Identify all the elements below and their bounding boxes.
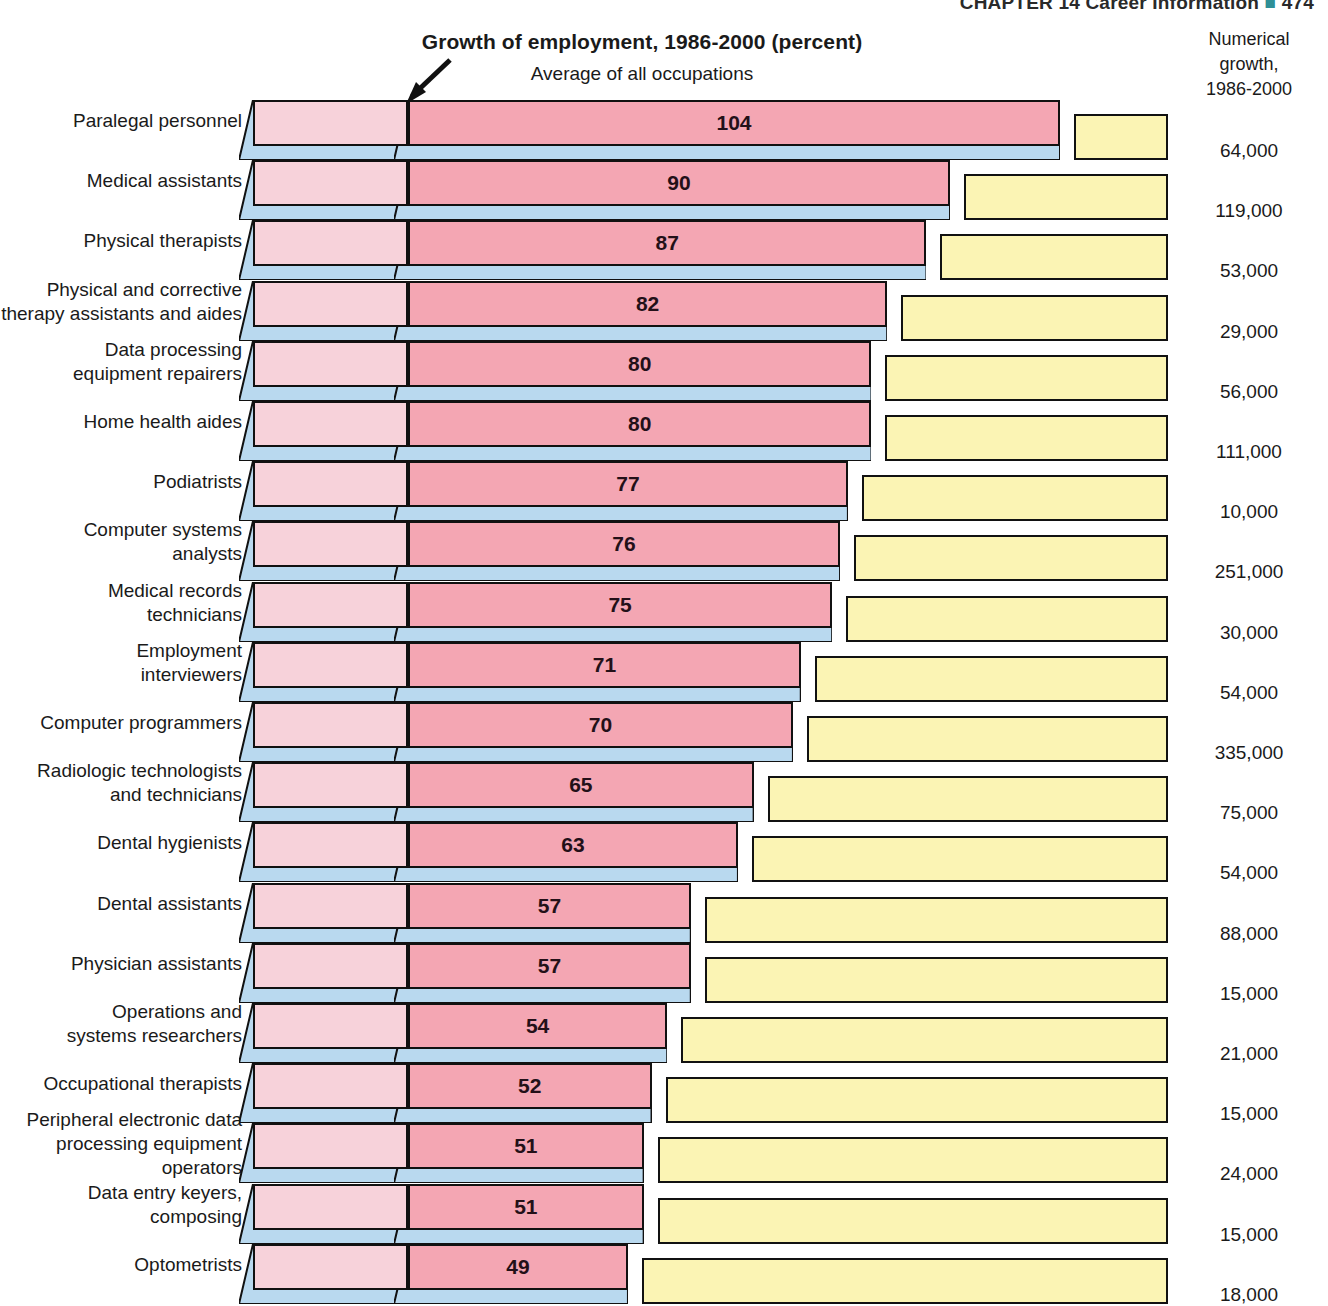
category-label: Medical assistants <box>0 169 242 193</box>
bar-segment-base <box>253 1123 408 1169</box>
numerical-growth-value: 29,000 <box>1176 321 1322 343</box>
category-label-line: Operations and <box>0 1000 242 1024</box>
category-label-line: Radiologic technologists <box>0 759 242 783</box>
bar-value-label: 57 <box>408 894 691 918</box>
bar-value-label: 49 <box>408 1255 628 1279</box>
bar-segment-base <box>253 1063 408 1109</box>
category-label-line: Optometrists <box>0 1253 242 1277</box>
bar-segment-base <box>253 160 408 206</box>
bar-value-label: 54 <box>408 1014 667 1038</box>
bar-segment-base <box>253 341 408 387</box>
category-label-line: and technicians <box>0 783 242 807</box>
numerical-growth-value: 15,000 <box>1176 1103 1322 1125</box>
category-label-line: Home health aides <box>0 410 242 434</box>
category-label-line: analysts <box>0 542 242 566</box>
category-label: Physician assistants <box>0 952 242 976</box>
numerical-growth-value: 18,000 <box>1176 1284 1322 1306</box>
category-label: Medical recordstechnicians <box>0 579 242 627</box>
numerical-growth-value: 335,000 <box>1176 742 1322 764</box>
running-head-page: 474 <box>1282 0 1314 13</box>
bar-value-label: 87 <box>408 231 926 255</box>
category-label-line: composing <box>0 1205 242 1229</box>
bar-segment-remainder <box>854 535 1168 581</box>
bar-value-label: 90 <box>408 171 950 195</box>
category-label-line: Peripheral electronic data <box>0 1108 242 1132</box>
category-label: Data entry keyers,composing <box>0 1181 242 1229</box>
category-label-line: Physical therapists <box>0 229 242 253</box>
category-label-line: Physical and corrective <box>0 278 242 302</box>
category-label-line: systems researchers <box>0 1024 242 1048</box>
bar-value-label: 70 <box>408 713 793 737</box>
bar-value-label: 51 <box>408 1195 644 1219</box>
numerical-growth-value: 30,000 <box>1176 622 1322 644</box>
bar-value-label: 75 <box>408 593 832 617</box>
bar-segment-remainder <box>964 174 1168 220</box>
bar-value-label: 65 <box>408 773 754 797</box>
numerical-growth-value: 56,000 <box>1176 381 1322 403</box>
category-label-line: Medical assistants <box>0 169 242 193</box>
bar-segment-remainder <box>705 897 1168 943</box>
category-label-line: Computer systems <box>0 518 242 542</box>
bar-segment-base <box>253 642 408 688</box>
bar-segment-base <box>253 100 408 146</box>
category-label: Data processingequipment repairers <box>0 338 242 386</box>
bar-segment-base <box>253 822 408 868</box>
category-label: Operations andsystems researchers <box>0 1000 242 1048</box>
numerical-growth-value: 251,000 <box>1176 561 1322 583</box>
bar-segment-base <box>253 762 408 808</box>
bar-segment-remainder <box>658 1198 1168 1244</box>
bar-segment-remainder <box>846 596 1168 642</box>
category-label-line: Medical records <box>0 579 242 603</box>
bar-segment-base <box>253 943 408 989</box>
numerical-growth-header-line2: growth, <box>1174 52 1324 77</box>
category-label: Dental assistants <box>0 892 242 916</box>
category-label-line: interviewers <box>0 663 242 687</box>
category-label-line: Data processing <box>0 338 242 362</box>
numerical-growth-value: 15,000 <box>1176 1224 1322 1246</box>
bar-segment-base <box>253 521 408 567</box>
numerical-growth-value: 111,000 <box>1176 441 1322 463</box>
bar-segment-base <box>253 401 408 447</box>
bar-segment-remainder <box>807 716 1168 762</box>
bar-segment-remainder <box>658 1137 1168 1183</box>
category-label: Computer systemsanalysts <box>0 518 242 566</box>
numerical-growth-value: 119,000 <box>1176 200 1322 222</box>
numerical-growth-value: 75,000 <box>1176 802 1322 824</box>
bar-segment-remainder <box>705 957 1168 1003</box>
bar-segment-base <box>253 1003 408 1049</box>
bar-value-label: 57 <box>408 954 691 978</box>
numerical-growth-value: 88,000 <box>1176 923 1322 945</box>
bar-segment-base <box>253 220 408 266</box>
bar-segment-remainder <box>901 295 1168 341</box>
bar-segment-remainder <box>642 1258 1168 1304</box>
category-label-line: Employment <box>0 639 242 663</box>
bar-segment-remainder <box>815 656 1168 702</box>
bar-segment-base <box>253 582 408 628</box>
category-label-line: Dental hygienists <box>0 831 242 855</box>
category-label: Physical and correctivetherapy assistant… <box>0 278 242 326</box>
chart-subtitle: Average of all occupations <box>262 63 1022 85</box>
bar-value-label: 104 <box>408 111 1060 135</box>
numerical-growth-value: 64,000 <box>1176 140 1322 162</box>
bar-value-label: 63 <box>408 833 738 857</box>
numerical-growth-column-header: Numerical growth, 1986-2000 <box>1174 27 1324 102</box>
category-label: Radiologic technologistsand technicians <box>0 759 242 807</box>
category-label-line: operators <box>0 1156 242 1180</box>
bar-segment-base <box>253 1244 408 1290</box>
bar-segment-remainder <box>768 776 1168 822</box>
category-label-line: Computer programmers <box>0 711 242 735</box>
bar-segment-remainder <box>752 836 1168 882</box>
category-label-line: processing equipment <box>0 1132 242 1156</box>
category-label-line: Podiatrists <box>0 470 242 494</box>
bar-value-label: 82 <box>408 292 887 316</box>
category-label-line: therapy assistants and aides <box>0 302 242 326</box>
bar-segment-remainder <box>862 475 1168 521</box>
category-label: Physical therapists <box>0 229 242 253</box>
bar-value-label: 51 <box>408 1134 644 1158</box>
bar-value-label: 80 <box>408 352 871 376</box>
bar-chart-plot: Paralegal personnel10464,000Medical assi… <box>0 96 1328 1296</box>
category-label: Occupational therapists <box>0 1072 242 1096</box>
numerical-growth-value: 15,000 <box>1176 983 1322 1005</box>
bar-segment-remainder <box>666 1077 1168 1123</box>
category-label-line: Dental assistants <box>0 892 242 916</box>
